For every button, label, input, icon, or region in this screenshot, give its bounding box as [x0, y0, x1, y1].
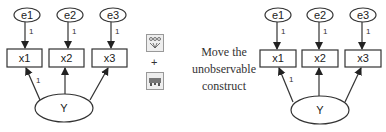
svg-text:e1: e1	[272, 9, 284, 21]
error-weight-label: 1	[72, 27, 77, 36]
svg-text:e3: e3	[357, 9, 369, 21]
indicator-node-x2[interactable]: x2	[49, 49, 84, 67]
svg-text:Y: Y	[316, 104, 324, 116]
svg-text:x2: x2	[61, 52, 73, 64]
error-node-e2[interactable]: e2	[57, 8, 83, 22]
indicator-node-x2[interactable]: x2	[302, 50, 338, 67]
error-node-e1[interactable]: e1	[14, 8, 40, 22]
svg-text:x1: x1	[272, 52, 284, 64]
indicator-node-x1[interactable]: x1	[7, 49, 42, 67]
error-weight-label: 1	[29, 27, 34, 36]
svg-text:e2: e2	[314, 9, 326, 21]
svg-text:e3: e3	[107, 9, 119, 21]
svg-text:x1: x1	[19, 52, 31, 64]
error-weight-label: 1	[323, 27, 328, 36]
error-weight-label: 1	[281, 27, 286, 36]
error-weight-label: 1	[366, 27, 371, 36]
svg-text:x3: x3	[104, 52, 116, 64]
caption-line: Move the	[189, 44, 259, 61]
caption-line: construct	[189, 78, 259, 95]
svg-text:e1: e1	[21, 9, 33, 21]
move-object-icon[interactable]	[146, 72, 164, 90]
loading-path-x1	[279, 68, 293, 102]
left-sem-diagram: e1 e2 e3 1 1 1 x1 x2 x3 1 Y	[0, 0, 135, 132]
plus-sign: +	[151, 56, 157, 68]
right-sem-diagram: e1 e2 e3 1 1 1 x1 x2 x3 1 Y	[253, 0, 386, 132]
svg-text:x3: x3	[357, 52, 369, 64]
latent-construct-y[interactable]: Y	[291, 96, 349, 124]
error-node-e1[interactable]: e1	[265, 8, 291, 22]
svg-text:Y: Y	[60, 102, 68, 114]
svg-text:e2: e2	[64, 9, 76, 21]
error-weight-label: 1	[115, 27, 120, 36]
loading-path-x3	[90, 68, 108, 100]
indicator-tree-icon[interactable]	[146, 34, 164, 52]
loading-weight-label: 1	[36, 76, 41, 85]
caption-text: Move the unobservable construct	[189, 44, 259, 95]
indicator-node-x1[interactable]: x1	[260, 50, 296, 67]
caption-line: unobservable	[189, 61, 259, 78]
error-node-e3[interactable]: e3	[350, 8, 376, 22]
loading-path-x3	[345, 68, 361, 102]
latent-construct-y[interactable]: Y	[35, 94, 93, 122]
indicator-node-x3[interactable]: x3	[92, 49, 127, 67]
loading-weight-label: 1	[289, 75, 294, 84]
error-node-e3[interactable]: e3	[100, 8, 126, 22]
svg-text:x2: x2	[314, 52, 326, 64]
indicator-node-x3[interactable]: x3	[345, 50, 381, 67]
error-node-e2[interactable]: e2	[307, 8, 333, 22]
